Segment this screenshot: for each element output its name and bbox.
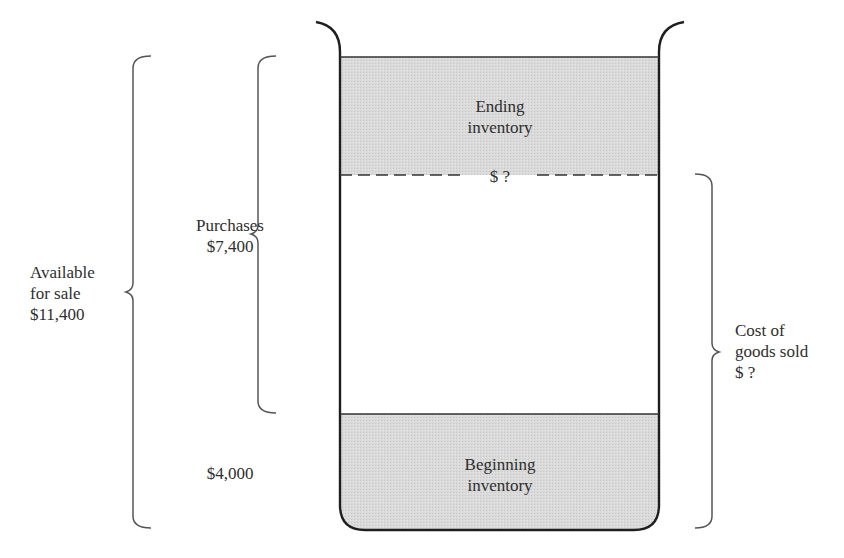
ending-inventory-label: Ending inventory	[440, 96, 560, 138]
cogs-line2: goods sold	[735, 341, 835, 362]
ending-inventory-line1: Ending	[440, 96, 560, 117]
cogs-value: $ ?	[735, 362, 835, 383]
available-line1: Available	[30, 262, 130, 283]
ending-inventory-line2: inventory	[440, 117, 560, 138]
beginning-inventory-label: Beginning inventory	[430, 454, 570, 496]
available-value: $11,400	[30, 304, 130, 325]
available-line2: for sale	[30, 283, 130, 304]
cogs-line1: Cost of	[735, 320, 835, 341]
beginning-inventory-line2: inventory	[430, 475, 570, 496]
purchases-line1: Purchases	[180, 215, 280, 236]
purchases-value: $7,400	[180, 236, 280, 257]
beginning-inventory-line1: Beginning	[430, 454, 570, 475]
beginning-inventory-value: $4,000	[180, 463, 280, 484]
ending-inventory-value: $ ?	[470, 166, 530, 187]
available-for-sale-label: Available for sale $11,400	[30, 262, 130, 325]
cost-of-goods-sold-brace	[695, 174, 719, 528]
purchases-label: Purchases $7,400	[180, 215, 280, 257]
cost-of-goods-sold-label: Cost of goods sold $ ?	[735, 320, 835, 383]
